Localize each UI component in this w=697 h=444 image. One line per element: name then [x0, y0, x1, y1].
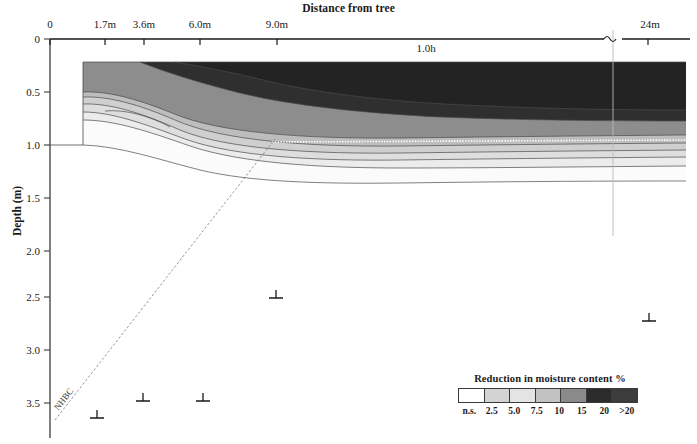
- y-tick-label-4: 2.0: [4, 245, 40, 257]
- legend-swatch-7p5: [536, 389, 562, 402]
- legend-label-7p5: 7.5: [526, 406, 549, 416]
- x-tick-label-2: 3.6m: [133, 18, 155, 30]
- legend-swatch-20: [612, 389, 637, 402]
- moisture-cross-section-figure: Distance from tree Depth (m): [0, 0, 697, 444]
- contour-bands: [83, 62, 686, 183]
- legend-title: Reduction in moisture content %: [455, 373, 645, 384]
- y-axis-ticks: [44, 39, 50, 403]
- y-tick-label-0: 0: [10, 33, 40, 45]
- legend-labels: n.s. 2.5 5.0 7.5 10 15 20 >20: [458, 406, 638, 416]
- y-tick-label-1: 0.5: [4, 86, 40, 98]
- legend-label-gt20: >20: [616, 406, 639, 416]
- legend: Reduction in moisture content % n.s. 2.5…: [455, 373, 645, 416]
- legend-swatch-10: [561, 389, 587, 402]
- x-tick-label-0: 0: [47, 18, 53, 30]
- y-tick-label-2: 1.0: [4, 139, 40, 151]
- x-tick-label-1: 1.7m: [94, 18, 116, 30]
- y-tick-label-6: 3.0: [4, 344, 40, 356]
- legend-swatch-2p5: [485, 389, 511, 402]
- legend-label-2p5: 2.5: [481, 406, 504, 416]
- legend-color-bar: [458, 388, 638, 403]
- legend-swatch-ns: [459, 389, 485, 402]
- legend-swatch-15: [587, 389, 613, 402]
- x-axis-ticks: [50, 39, 648, 45]
- axis-break-symbol: [604, 37, 616, 42]
- legend-swatch-5p0: [510, 389, 536, 402]
- y-tick-label-3: 1.5: [4, 192, 40, 204]
- y-tick-label-5: 2.5: [4, 291, 40, 303]
- legend-label-5p0: 5.0: [503, 406, 526, 416]
- x-tick-label-3: 6.0m: [189, 18, 211, 30]
- legend-label-15: 15: [571, 406, 594, 416]
- y-tick-label-7: 3.5: [4, 397, 40, 409]
- x-tick-label-5: 24m: [640, 18, 660, 30]
- legend-label-ns: n.s.: [458, 406, 481, 416]
- depth-ratio-annotation: 1.0h: [416, 42, 435, 54]
- x-tick-label-4: 9.0m: [266, 18, 288, 30]
- legend-label-10: 10: [548, 406, 571, 416]
- nhbc-guide-line: [55, 139, 275, 420]
- legend-label-20: 20: [593, 406, 616, 416]
